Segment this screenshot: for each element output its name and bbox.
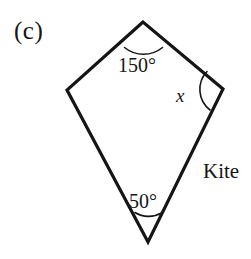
angle-label-bottom: 50° — [129, 191, 157, 211]
angle-label-x: x — [176, 86, 184, 105]
angle-label-top: 150° — [118, 55, 156, 75]
kite-figure: (c) 150° x 50° Kite — [0, 0, 251, 259]
shape-name-label: Kite — [203, 161, 239, 182]
part-label: (c) — [14, 18, 43, 43]
angle-arc-bottom — [135, 213, 162, 217]
